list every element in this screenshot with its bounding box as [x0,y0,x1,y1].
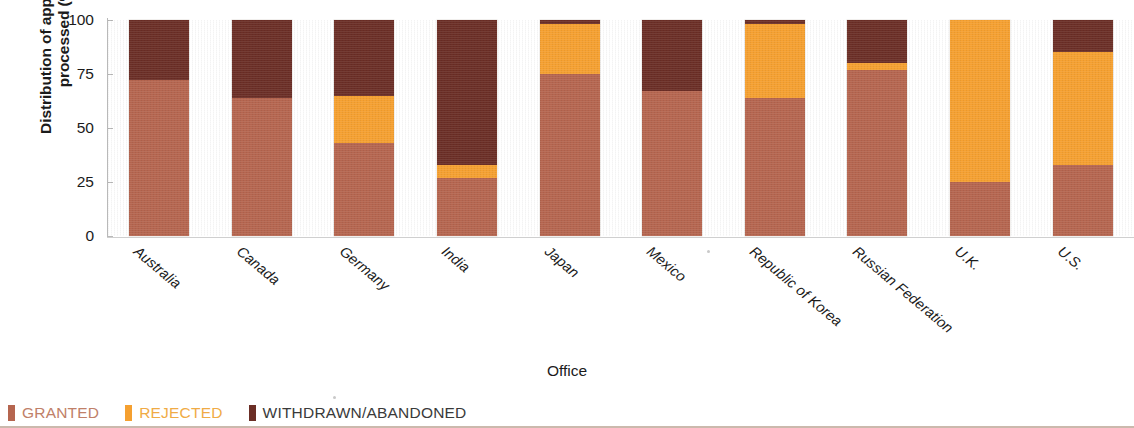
bar-germany[interactable] [334,20,394,236]
bar-segment-granted[interactable] [437,178,497,236]
bar-slot [416,20,519,236]
x-axis-tick-label: Canada [234,243,283,288]
bar-slot [108,20,211,236]
bar-slot [211,20,314,236]
bar-u-k[interactable] [950,20,1010,236]
y-axis-tick-25: 25 [34,173,94,191]
x-axis-tick-label: Japan [541,243,582,281]
legend-swatch-withdrawn [249,405,256,421]
bar-segment-granted[interactable] [540,74,600,236]
scan-speck [707,250,710,253]
bar-segment-rejected[interactable] [745,24,805,97]
bar-segment-rejected[interactable] [437,165,497,178]
bar-segment-withdrawn[interactable] [437,20,497,165]
bar-canada[interactable] [232,20,292,236]
x-axis-title: Office [0,362,1134,380]
legend-label-withdrawn: WITHDRAWN/ABANDONED [263,404,467,422]
bar-republic-of-korea[interactable] [745,20,805,236]
bar-slot [518,20,621,236]
x-axis-tick-label: Australia [131,243,185,292]
bar-segment-withdrawn[interactable] [129,20,189,80]
bar-segment-granted[interactable] [745,98,805,236]
x-axis-line [107,237,1134,238]
x-axis-tick-label: Republic of Korea [747,243,846,329]
legend-swatch-rejected [125,405,132,421]
x-axis-tick-label: India [439,243,473,275]
bar-segment-granted[interactable] [847,70,907,236]
bar-australia[interactable] [129,20,189,236]
bar-slot [826,20,929,236]
bar-segment-withdrawn[interactable] [1053,20,1113,52]
plot-area [108,20,1134,236]
y-axis-tick-50: 50 [34,119,94,137]
bar-russian-federation[interactable] [847,20,907,236]
bar-segment-withdrawn[interactable] [232,20,292,98]
chart-legend: GRANTED REJECTED WITHDRAWN/ABANDONED [8,404,466,422]
bar-segment-granted[interactable] [232,98,292,236]
bar-segment-granted[interactable] [1053,165,1113,236]
bar-segment-rejected[interactable] [1053,52,1113,164]
bar-segment-granted[interactable] [334,143,394,236]
legend-item-withdrawn[interactable]: WITHDRAWN/ABANDONED [249,404,467,422]
bar-india[interactable] [437,20,497,236]
bar-mexico[interactable] [642,20,702,236]
bar-segment-rejected[interactable] [540,24,600,74]
x-axis-tick-label: U.S. [1054,243,1086,273]
bar-slot [621,20,724,236]
bar-segment-rejected[interactable] [334,96,394,144]
bar-slot [1031,20,1134,236]
bar-segment-granted[interactable] [950,182,1010,236]
bar-segment-withdrawn[interactable] [642,20,702,91]
bar-segment-rejected[interactable] [950,20,1010,182]
x-axis-tick-label: Mexico [644,243,689,285]
bar-segment-withdrawn[interactable] [847,20,907,63]
legend-item-rejected[interactable]: REJECTED [125,404,222,422]
bar-segment-withdrawn[interactable] [334,20,394,96]
x-axis-tick-label: Germany [336,243,392,294]
y-axis-tick-0: 0 [34,227,94,245]
bar-segment-granted[interactable] [642,91,702,236]
stacked-bar-chart: Distribution of applications processed (… [0,0,1134,428]
y-axis-tick-75: 75 [34,65,94,83]
bar-segment-granted[interactable] [129,80,189,236]
legend-label-rejected: REJECTED [139,404,222,422]
bar-u-s[interactable] [1053,20,1113,236]
y-axis-tick-100: 100 [34,11,94,29]
legend-swatch-granted [8,405,15,421]
bar-slot [929,20,1032,236]
bar-slot [313,20,416,236]
scan-speck [333,396,336,399]
x-axis-tick-label: Russian Federation [849,243,956,336]
x-axis-tick-label: U.K. [952,243,984,273]
legend-item-granted[interactable]: GRANTED [8,404,99,422]
y-axis-tick-mark [107,236,113,237]
bar-slot [724,20,827,236]
legend-label-granted: GRANTED [22,404,99,422]
bar-japan[interactable] [540,20,600,236]
